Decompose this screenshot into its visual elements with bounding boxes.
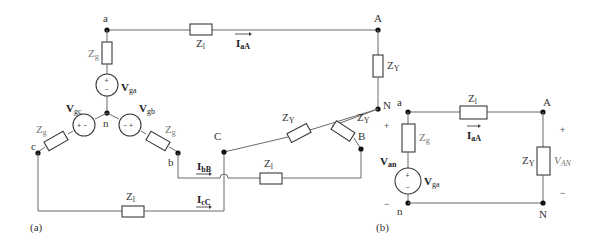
resistor-zl-c (122, 206, 144, 217)
label-iaa: IaA (236, 37, 250, 51)
wire-vgb-zg (141, 131, 146, 134)
polarity-gb: − + (123, 122, 133, 129)
wire-n-vgb (107, 113, 119, 119)
caption-a: (a) (30, 221, 43, 234)
label-vga: Vga (121, 81, 137, 95)
label-zg-a: Zg (88, 47, 99, 61)
label-zy-c: ZY (282, 111, 295, 125)
node-C (221, 149, 226, 154)
label-zg-b-panel: Zg (419, 131, 430, 145)
panel-a: Zl IaA a Zg + − Vga n + − Vgc Zg (30, 12, 400, 234)
sign-plus-van: + (384, 121, 389, 131)
polarity-plus-ga-b: + (406, 172, 410, 179)
label-node-A-b: A (543, 96, 551, 108)
wire-vgc-zg (68, 131, 73, 134)
label-node-A: A (374, 12, 382, 24)
sign-minus-van: − (384, 199, 389, 209)
label-iaa-b: IaA (467, 129, 481, 143)
label-zl-a: Zl (196, 37, 206, 51)
resistor-zl-b (260, 173, 282, 184)
polarity-plus-ga: + (105, 77, 109, 84)
sign-plus-van-load: + (560, 125, 565, 135)
label-v-AN: VAN (554, 154, 572, 168)
polarity-gc: + − (77, 122, 87, 129)
polarity-minus-ga: − (105, 86, 109, 93)
label-node-N: N (383, 99, 391, 111)
label-zy-b-panel: ZY (522, 154, 535, 168)
label-vgc: Vgc (66, 102, 82, 116)
label-zl-b: Zl (264, 157, 274, 171)
label-zl-c: Zl (126, 190, 136, 204)
sign-minus-van-load: − (560, 188, 565, 198)
label-node-n: n (103, 117, 109, 129)
resistor-zg-c (44, 131, 68, 151)
label-zy-a: ZY (387, 59, 400, 73)
label-node-b: b (168, 156, 174, 168)
caption-b: (b) (376, 221, 389, 234)
label-node-a: a (103, 12, 108, 24)
label-vga-b: Vga (424, 175, 440, 189)
arrowhead-iaa-b-icon (478, 124, 481, 128)
label-node-B: B (358, 130, 365, 142)
label-van: Van (380, 155, 397, 169)
panel-b: Zl IaA a + Van − Zg + − Vga n A ZY (376, 92, 572, 234)
label-node-c: c (31, 140, 36, 152)
wire-zyc-C (224, 137, 288, 152)
resistor-zy-b (331, 121, 355, 141)
label-node-a-b: a (397, 96, 402, 108)
resistor-zl-a (190, 24, 212, 35)
resistor-zy-c (287, 123, 311, 142)
node-N-b (540, 200, 545, 205)
label-icc: IcC (197, 193, 211, 207)
label-zl-b-panel: Zl (468, 92, 478, 106)
label-ibb: IbB (197, 160, 212, 174)
label-node-N-b: N (539, 208, 547, 220)
node-B (358, 146, 363, 151)
resistor-zy-a (373, 55, 383, 77)
resistor-zg-a (102, 42, 112, 64)
label-vgb: Vgb (139, 102, 155, 116)
resistor-zy-b-panel (537, 147, 550, 175)
polarity-minus-ga-b: − (406, 184, 410, 191)
label-zg-c: Zg (36, 123, 47, 137)
resistor-zl-b-panel (460, 106, 487, 119)
label-zg-b: Zg (165, 123, 176, 137)
label-node-C: C (214, 130, 221, 142)
arrowhead-iaa-icon (249, 32, 252, 36)
label-node-n-b: n (397, 205, 403, 217)
circuit-diagram: Zl IaA a Zg + − Vga n + − Vgc Zg (0, 0, 599, 242)
resistor-zg-b-panel (402, 124, 415, 152)
